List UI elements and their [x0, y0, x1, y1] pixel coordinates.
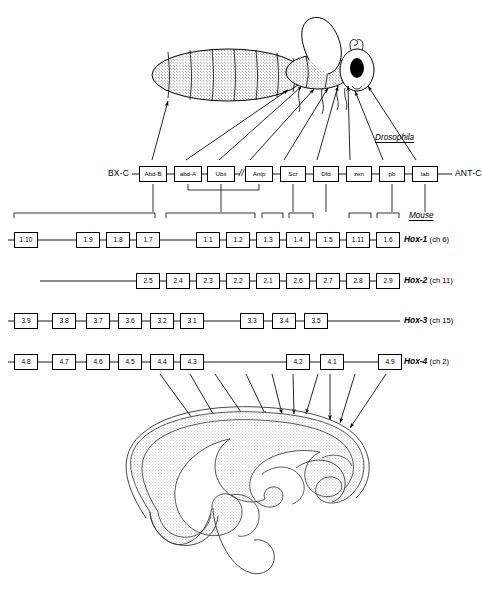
mouse-gene-3-1: 3.1	[180, 313, 204, 329]
mouse-gene-4-4: 4.4	[150, 354, 174, 370]
cluster-name: Hox-1	[404, 234, 427, 244]
drosophila-gene-abd-b: Abd-B	[139, 166, 167, 182]
mouse-gene-1-9: 1.9	[76, 232, 100, 248]
mouse-gene-3-5: 3.5	[304, 313, 328, 329]
mouse-gene-3-7: 3.7	[86, 313, 110, 329]
cluster-chromosome: (ch 2)	[430, 357, 449, 366]
cluster-chromosome: (ch 15)	[430, 316, 454, 325]
mouse-gene-1-1: 1.1	[196, 232, 220, 248]
mouse-gene-4-1: 4.1	[320, 354, 344, 370]
mouse-gene-4-3: 4.3	[180, 354, 204, 370]
drosophila-gene-dfd: Dfd	[313, 166, 339, 182]
drosophila-gene-lab: lab	[412, 166, 438, 182]
mouse-gene-3-9: 3.9	[14, 313, 38, 329]
cluster-chromosome: (ch 6)	[430, 235, 449, 244]
drosophila-fly-illustration	[152, 17, 374, 114]
mouse-gene-2-4: 2.4	[166, 273, 190, 289]
mouse-gene-2-6: 2.6	[286, 273, 310, 289]
drosophila-gene-antp: Antp	[245, 166, 273, 182]
drosophila-gene-ubx: Ubx	[207, 166, 235, 182]
mouse-gene-4-6: 4.6	[86, 354, 110, 370]
mouse-gene-1-8: 1.8	[106, 232, 130, 248]
mouse-gene-2-5: 2.5	[136, 273, 160, 289]
mouse-gene-1-4: 1.4	[286, 232, 310, 248]
mouse-gene-1-2: 1.2	[226, 232, 250, 248]
mouse-gene-1-3: 1.3	[256, 232, 280, 248]
mouse-gene-3-8: 3.8	[52, 313, 76, 329]
drosophila-gene-pb: pb	[379, 166, 405, 182]
cluster-name: Hox-2	[404, 275, 427, 285]
species-label-drosophila: Drosophila	[375, 134, 414, 142]
mouse-gene-4-5: 4.5	[118, 354, 142, 370]
cluster-name: Hox-4	[404, 356, 427, 366]
mouse-gene-2-7: 2.7	[316, 273, 340, 289]
mouse-gene-1-7: 1.7	[136, 232, 160, 248]
mouse-gene-3-2: 3.2	[150, 313, 174, 329]
mouse-embryo-illustration	[126, 407, 369, 574]
mouse-gene-4-7: 4.7	[52, 354, 76, 370]
mouse-gene-3-4: 3.4	[272, 313, 296, 329]
mouse-gene-2-8: 2.8	[346, 273, 370, 289]
cluster-name: Hox-3	[404, 315, 427, 325]
antc-complex-label: ANT-C	[455, 169, 482, 178]
mouse-gene-1-6: 1.6	[376, 232, 400, 248]
mouse-gene-2-1: 2.1	[256, 273, 280, 289]
mouse-gene-3-3: 3.3	[240, 313, 264, 329]
homology-brackets	[14, 184, 425, 218]
species-label-mouse: Mouse	[409, 212, 434, 220]
drosophila-gene-abd-a: abd-A	[174, 166, 202, 182]
mouse-chromosome-lines	[8, 240, 400, 362]
mouse-gene-4-8: 4.8	[14, 354, 38, 370]
mouse-gene-1-11: 1.11	[346, 232, 370, 248]
mouse-cluster-label-hox-3: Hox-3 (ch 15)	[404, 316, 453, 325]
mouse-cluster-label-hox-4: Hox-4 (ch 2)	[404, 357, 449, 366]
chromosome-gap-separator: //	[239, 168, 244, 178]
bxc-complex-label: BX-C	[108, 169, 129, 178]
mouse-gene-2-3: 2.3	[196, 273, 220, 289]
mouse-cluster-label-hox-2: Hox-2 (ch 11)	[404, 276, 453, 285]
mouse-gene-2-9: 2.9	[376, 273, 400, 289]
mouse-gene-3-6: 3.6	[118, 313, 142, 329]
cluster-chromosome: (ch 11)	[430, 276, 453, 285]
drosophila-gene-zen: zen	[346, 166, 372, 182]
mouse-gene-4-9: 4.9	[378, 354, 402, 370]
drosophila-gene-scr: Scr	[280, 166, 306, 182]
mouse-cluster-label-hox-1: Hox-1 (ch 6)	[404, 235, 449, 244]
mouse-gene-4-2: 4.2	[286, 354, 310, 370]
mouse-gene-1-5: 1.5	[316, 232, 340, 248]
mouse-gene-2-2: 2.2	[226, 273, 250, 289]
mouse-gene-1-10: 1.10	[14, 232, 38, 248]
